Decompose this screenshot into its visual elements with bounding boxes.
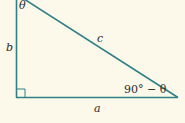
side-b-label: b xyxy=(6,41,13,54)
complement-angle-label: 90° − θ xyxy=(124,83,167,96)
side-a-label: a xyxy=(94,102,101,115)
theta-label: θ xyxy=(19,0,26,12)
right-triangle-diagram: θ b c 90° − θ a xyxy=(0,0,185,123)
background xyxy=(0,0,185,123)
side-c-label: c xyxy=(97,32,103,45)
